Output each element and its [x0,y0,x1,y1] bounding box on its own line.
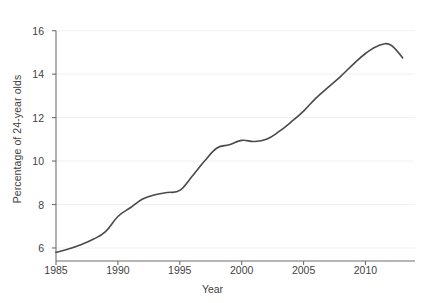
x-tick-label: 2000 [220,264,264,276]
x-axis-title: Year [0,283,425,295]
figure-caption [0,296,425,303]
x-tick-label: 1985 [34,264,78,276]
x-tick-label: 2005 [282,264,326,276]
x-tick-label: 2010 [343,264,387,276]
chart-figure: 6810121416 198519901995200020052010 Perc… [0,0,425,303]
tick-marks [52,31,365,265]
y-tick-label: 12 [22,113,44,123]
y-tick-label: 6 [22,243,44,253]
y-axis-title: Percentage of 24-year olds [11,29,23,249]
y-tick-label: 16 [22,26,44,36]
line-series-percentage-24-year-olds [56,44,403,253]
x-tick-label: 1990 [96,264,140,276]
y-tick-label: 10 [22,156,44,166]
y-tick-label: 8 [22,200,44,210]
x-tick-label: 1995 [158,264,202,276]
y-tick-label: 14 [22,69,44,79]
chart-plot-area [0,0,425,303]
grid-lines [56,31,415,248]
